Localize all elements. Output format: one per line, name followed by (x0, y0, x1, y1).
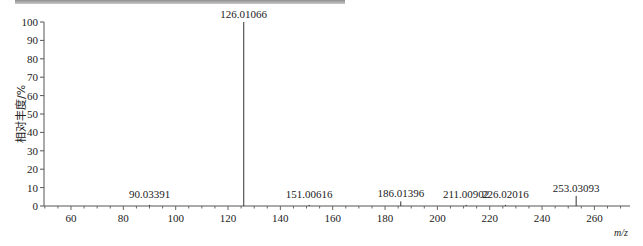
x-tick-label: 60 (66, 212, 78, 224)
y-tick-label: 90 (27, 34, 39, 46)
x-tick-label: 220 (481, 212, 498, 224)
x-tick-label: 80 (118, 212, 130, 224)
y-tick-label: 100 (22, 16, 39, 28)
x-tick-label: 160 (324, 212, 341, 224)
y-tick-label: 80 (27, 53, 39, 65)
x-tick-label: 260 (586, 212, 603, 224)
x-tick-label: 240 (534, 212, 551, 224)
peak-label: 186.01396 (377, 187, 424, 199)
y-tick-label: 50 (27, 108, 39, 120)
x-tick-label: 180 (377, 212, 394, 224)
peak-label: 253.03093 (553, 182, 600, 194)
y-tick-label: 60 (27, 90, 39, 102)
peak-label: 151.00616 (286, 188, 333, 200)
peak-label: 226.02016 (482, 188, 529, 200)
y-tick-label: 30 (27, 145, 39, 157)
peaks: 90.03391126.01066151.00616186.01396211.0… (129, 8, 600, 206)
mass-spectrum-chart: 0102030405060708090100608010012014016018… (0, 0, 643, 246)
x-tick-label: 120 (220, 212, 237, 224)
x-tick-label: 100 (167, 212, 184, 224)
y-tick-label: 20 (27, 163, 39, 175)
y-tick-label: 10 (27, 182, 39, 194)
x-tick-label: 200 (429, 212, 446, 224)
x-tick-label: 140 (272, 212, 289, 224)
peak-label: 126.01066 (220, 8, 267, 20)
y-axis-title: 相对丰度/% (14, 85, 28, 143)
y-tick-label: 70 (27, 71, 39, 83)
x-axis-unit: m/z (614, 227, 628, 238)
y-tick-label: 0 (33, 200, 39, 212)
peak-label: 90.03391 (129, 188, 170, 200)
y-tick-label: 40 (27, 126, 39, 138)
